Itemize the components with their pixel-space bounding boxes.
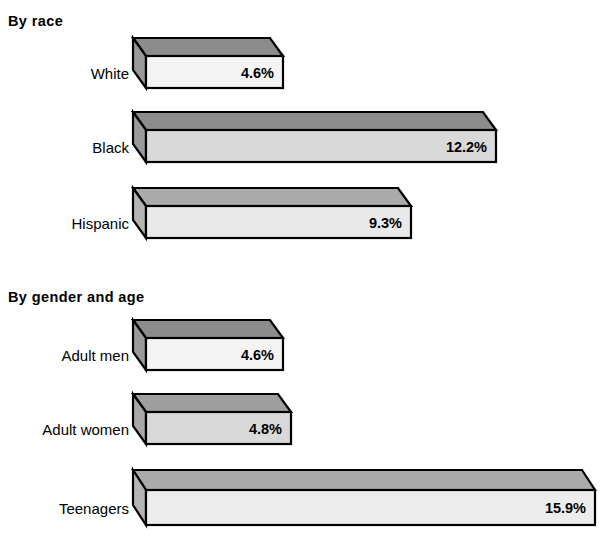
bar-category-label: Adult men [61,348,129,363]
bar-shape-black [0,0,608,544]
bar-shape-hispanic [0,0,608,544]
chart-canvas: By race By gender and age White4.6%Black… [0,0,608,544]
bar-top-face [133,320,283,338]
bar-value-label: 15.9% [545,501,586,516]
bar-value-label: 12.2% [446,140,487,155]
bar-side-face [133,470,146,525]
bar-category-label: Adult women [42,422,129,437]
group-heading-by-race: By race [8,14,63,29]
bar-front-face [146,490,595,525]
bar-top-face [133,188,411,206]
bar-value-label: 4.8% [249,422,282,437]
bar-shape-white [0,0,608,544]
bar-shape-adult-women [0,0,608,544]
bar-value-label: 4.6% [241,348,274,363]
bar-side-face [133,188,146,238]
bar-front-face [146,130,496,162]
bar-shape-adult-men [0,0,608,544]
bar-category-label: Teenagers [59,501,129,516]
bar-value-label: 4.6% [241,66,274,81]
bar-shape-teenagers [0,0,608,544]
bar-side-face [133,394,146,444]
bar-top-face [133,38,283,56]
bar-category-label: White [91,66,129,81]
bar-side-face [133,38,146,88]
bar-category-label: Hispanic [71,216,129,231]
bar-value-label: 9.3% [369,216,402,231]
bar-side-face [133,320,146,370]
bar-top-face [133,470,595,490]
bar-category-label: Black [92,140,129,155]
bar-top-face [133,394,291,412]
bar-side-face [133,112,146,162]
group-heading-by-gender-and-age: By gender and age [8,290,145,305]
bar-top-face [133,112,496,130]
